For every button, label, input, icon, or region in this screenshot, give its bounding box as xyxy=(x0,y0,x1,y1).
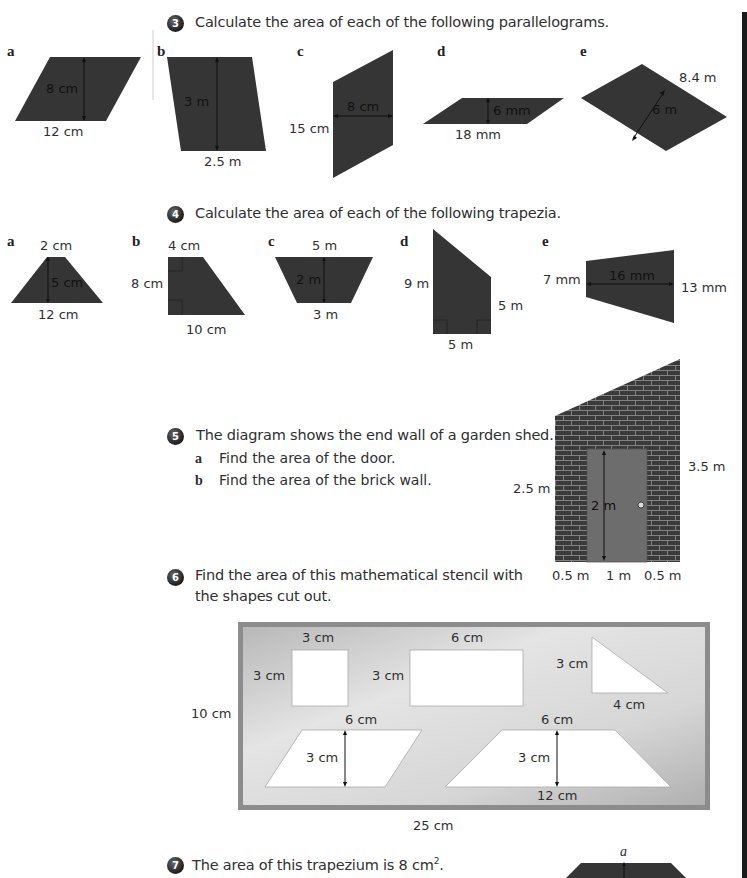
q5-part-b: bFind the area of the brick wall. xyxy=(195,472,432,489)
q4c-bottom-label: 3 m xyxy=(313,307,338,322)
wall-left-height-label: 2.5 m xyxy=(513,481,550,496)
q3c-side-label: 15 cm xyxy=(289,121,330,136)
q4a-top-label: 2 cm xyxy=(40,238,72,253)
q7-trapezium xyxy=(0,0,1,1)
q7-top-label: a xyxy=(620,844,627,860)
q5-part-a: aFind the area of the door. xyxy=(195,450,396,467)
q3c-letter: c xyxy=(297,43,304,60)
q3d-base-label: 18 mm xyxy=(455,127,501,142)
stencil-square-top-label: 3 cm xyxy=(302,630,334,645)
q4a-letter: a xyxy=(7,233,15,250)
page-edge-bar xyxy=(742,12,747,878)
q4e-left-label: 7 mm xyxy=(543,272,581,287)
q3d-height-label: 6 mm xyxy=(493,103,531,118)
page-gutter-line xyxy=(152,30,154,100)
stencil-triangle-side-label: 3 cm xyxy=(556,656,588,671)
question-6-badge: 6 xyxy=(167,569,184,586)
question-5-text: The diagram shows the end wall of a gard… xyxy=(196,427,554,443)
q3a-base-label: 12 cm xyxy=(43,124,84,139)
question-4-text: Calculate the area of each of the follow… xyxy=(195,205,561,221)
stencil-rectangle-top-label: 6 cm xyxy=(451,630,483,645)
stencil-triangle-bottom-label: 4 cm xyxy=(613,697,645,712)
q3b-height-label: 3 m xyxy=(184,94,209,109)
q4e-width-label: 16 mm xyxy=(609,268,655,283)
question-7-text: The area of this trapezium is 8 cm2. xyxy=(192,856,444,873)
wall-bottom-left-label: 0.5 m xyxy=(552,568,589,583)
q4c-height-label: 2 m xyxy=(296,272,321,287)
wall-bottom-right-label: 0.5 m xyxy=(644,568,681,583)
door-height-label: 2 m xyxy=(591,498,616,513)
wall-right-height-label: 3.5 m xyxy=(688,459,725,474)
stencil-height-label: 10 cm xyxy=(191,706,232,721)
q3a-height-label: 8 cm xyxy=(46,81,78,96)
question-7-badge: 7 xyxy=(167,857,184,874)
question-6-text-line1: Find the area of this mathematical stenc… xyxy=(195,567,523,583)
q4b-height-label: 8 cm xyxy=(131,276,163,291)
q4e-letter: e xyxy=(542,233,549,250)
q4d-bottom-label: 5 m xyxy=(448,337,473,352)
stencil-trapezium-top-label: 6 cm xyxy=(541,712,573,727)
q4d-letter: d xyxy=(400,233,408,250)
stencil-rectangle-side-label: 3 cm xyxy=(372,668,404,683)
stencil-parallelogram-height-label: 3 cm xyxy=(306,750,338,765)
question-6-text-line2: the shapes cut out. xyxy=(195,588,331,604)
stencil-parallelogram-top-label: 6 cm xyxy=(345,712,377,727)
q3d-letter: d xyxy=(437,43,445,60)
question-3-text: Calculate the area of each of the follow… xyxy=(195,14,609,30)
stencil-trapezium-bottom-label: 12 cm xyxy=(537,788,578,803)
q3e-side-label: 8.4 m xyxy=(679,70,716,85)
q4c-letter: c xyxy=(268,233,275,250)
q4b-top-label: 4 cm xyxy=(168,238,200,253)
q3a-letter: a xyxy=(7,43,15,60)
q3b-letter: b xyxy=(157,43,165,60)
question-5-badge: 5 xyxy=(167,428,184,445)
question-3-badge: 3 xyxy=(167,15,184,32)
q3b-base-label: 2.5 m xyxy=(204,154,241,169)
stencil-square-side-label: 3 cm xyxy=(253,668,285,683)
q4d-right-label: 5 m xyxy=(498,298,523,313)
q4e-right-label: 13 mm xyxy=(681,280,727,295)
door-width-label: 1 m xyxy=(606,568,631,583)
stencil-trapezium-height-label: 3 cm xyxy=(518,750,550,765)
q4a-height-label: 5 cm xyxy=(51,275,83,290)
q4b-letter: b xyxy=(132,233,140,250)
q3e-height-label: 6 m xyxy=(652,102,677,117)
q3e-letter: e xyxy=(580,43,587,60)
q4a-bottom-label: 12 cm xyxy=(38,307,79,322)
question-4-badge: 4 xyxy=(167,206,184,223)
q4d-left-label: 9 m xyxy=(404,276,429,291)
q3c-width-label: 8 cm xyxy=(347,99,379,114)
q4b-bottom-label: 10 cm xyxy=(186,322,227,337)
q4c-top-label: 5 m xyxy=(312,238,337,253)
stencil-width-label: 25 cm xyxy=(413,818,454,833)
